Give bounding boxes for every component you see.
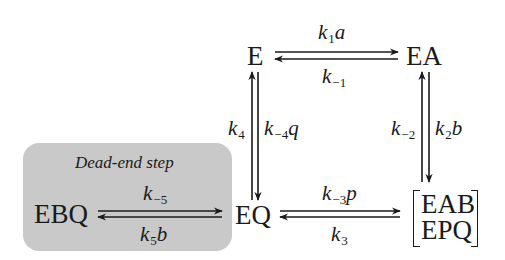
rate-k-3p: k−3p xyxy=(322,183,357,206)
node-epq: EPQ xyxy=(421,217,472,244)
rate-k5b: k5b xyxy=(140,224,167,247)
rate-k-2: k−2 xyxy=(391,118,415,141)
node-ebq: EBQ xyxy=(34,201,88,228)
bracket-left xyxy=(413,190,420,247)
rate-k3: k3 xyxy=(331,224,348,247)
node-ea: EA xyxy=(406,43,442,70)
node-eq: EQ xyxy=(235,202,271,229)
rate-k-5: k−5 xyxy=(143,183,167,206)
rate-k-1: k−1 xyxy=(322,66,346,89)
node-e: E xyxy=(247,43,264,70)
node-eab: EAB xyxy=(421,191,475,218)
rate-k2b: k2b xyxy=(435,118,462,141)
rate-k4: k4 xyxy=(228,118,245,141)
rate-k-4q: k−4q xyxy=(264,118,299,141)
rate-k1a: k1a xyxy=(318,22,345,45)
